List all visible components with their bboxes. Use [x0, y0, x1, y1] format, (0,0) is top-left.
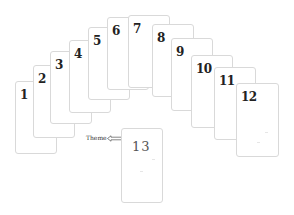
card-fan-diagram: 1 2 3 4 5 6 7 8 9 10 11 12 13 Theme	[0, 0, 294, 215]
card-number: 7	[133, 22, 141, 36]
card-number: 4	[74, 47, 82, 61]
theme-label: Theme	[86, 134, 107, 141]
card-speckle	[265, 132, 268, 133]
card-number: 8	[157, 31, 165, 45]
card-number: 5	[93, 34, 101, 48]
card-number: 6	[112, 24, 120, 38]
card-number: 13	[132, 139, 151, 154]
card-number: 10	[196, 62, 212, 76]
card-speckle	[257, 142, 260, 143]
card-number: 3	[55, 58, 63, 72]
card-speckle	[140, 171, 143, 172]
card-number: 11	[219, 74, 235, 88]
card-speckle	[152, 159, 155, 160]
card-number: 12	[241, 90, 257, 104]
card-number: 9	[176, 45, 184, 59]
card-number: 1	[20, 88, 28, 102]
card-12: 12	[236, 83, 279, 157]
card-number: 2	[38, 72, 46, 86]
card-13: 13	[121, 128, 163, 203]
